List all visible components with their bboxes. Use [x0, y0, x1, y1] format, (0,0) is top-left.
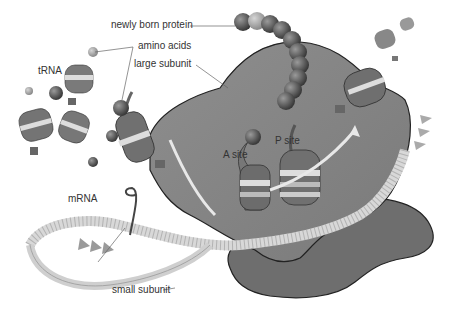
- label-a-site: A site: [223, 150, 247, 160]
- amino-acid-a-site: [245, 129, 261, 145]
- ribosome-diagram: newly born protein amino acids large sub…: [0, 0, 453, 314]
- trna-free-cluster: [17, 65, 93, 155]
- label-p-site: P site: [275, 136, 300, 146]
- amino-acid-incoming: [113, 100, 129, 116]
- label-large-subunit: large subunit: [134, 59, 191, 69]
- label-mrna: mRNA: [68, 194, 97, 204]
- label-trna: tRNA: [38, 66, 62, 76]
- trna-distant: [373, 16, 416, 61]
- label-small-subunit: small subunit: [112, 285, 170, 295]
- label-amino-acids: amino acids: [138, 41, 191, 51]
- mrna-loop-back: [30, 245, 210, 286]
- label-newly-born-protein: newly born protein: [111, 20, 193, 30]
- amino-acid-trna-left: [49, 86, 63, 100]
